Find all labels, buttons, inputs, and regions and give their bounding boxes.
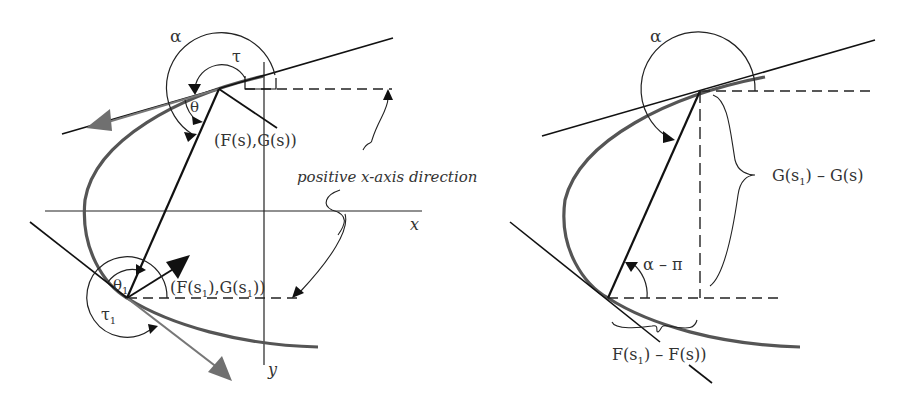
point-s1-label: (F(s1),G(s1)) [170, 278, 266, 299]
g-diff-brace [710, 95, 755, 286]
point-s-label: (F(s),G(s)) [214, 131, 297, 150]
diagram-canvas: α τ θ (F(s),G(s)) positive x-axis direct… [0, 0, 902, 400]
right-top-tangent-line [542, 40, 875, 136]
annotation-arrowhead-top [383, 89, 393, 100]
tau1-label: τ1 [101, 305, 116, 326]
tau-arc [195, 65, 245, 88]
annotation-arrow-bottom [300, 214, 346, 292]
bottom-gray-arrowhead [208, 356, 232, 381]
right-panel: α G(s1) – G(s) α – π F(s1) – F(s)) [510, 26, 875, 383]
alpha-arc [166, 33, 275, 134]
top-normal-segment [219, 89, 277, 128]
right-alpha-label: α [650, 26, 662, 46]
alpha-label: α [170, 26, 182, 46]
theta-label: θ [190, 98, 199, 116]
left-panel: α τ θ (F(s),G(s)) positive x-axis direct… [30, 26, 477, 381]
top-gray-arrowhead [86, 109, 112, 131]
annotation-squiggle [326, 190, 344, 235]
tau-arrowhead [188, 84, 201, 95]
g-diff-label: G(s1) – G(s) [772, 166, 864, 187]
bottom-normal-arrowhead [166, 255, 190, 279]
theta1-label: θ1 [113, 276, 128, 296]
bottom-gray-tangent-arrow [127, 298, 218, 368]
f-diff-label: F(s1) – F(s)) [612, 345, 706, 366]
top-tangent-line [62, 38, 393, 134]
right-bottom-tangent-tail [689, 365, 712, 383]
alpha-arrowhead [184, 132, 197, 142]
right-alpha-arrowhead [663, 131, 675, 143]
tau1-arrowhead [148, 324, 158, 334]
theta-arrowhead [192, 116, 203, 125]
right-bottom-tangent-line [510, 222, 660, 342]
x-axis-label: x [410, 215, 419, 234]
alpha-minus-pi-label: α – π [643, 255, 683, 274]
annotation-arrow-top [363, 98, 388, 150]
y-axis-label: y [267, 360, 278, 379]
curve-right [564, 77, 800, 347]
annotation-label: positive x-axis direction [297, 168, 477, 186]
top-gray-tangent-arrow [108, 89, 219, 122]
tau-label: τ [232, 47, 241, 66]
annotation-arrowhead-bottom [292, 286, 304, 298]
